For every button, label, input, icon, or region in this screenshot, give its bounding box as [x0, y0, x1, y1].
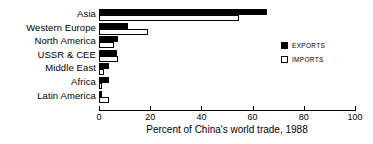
chart-legend: EXPORTS IMPORTS	[281, 40, 367, 68]
x-axis-tick	[253, 106, 254, 110]
x-axis-tick	[99, 106, 100, 110]
bar-imports	[99, 97, 109, 103]
x-axis-tick-label: 20	[137, 112, 163, 122]
bar-imports	[99, 15, 239, 21]
bar-group	[99, 91, 355, 103]
legend-swatch-imports	[281, 56, 288, 63]
x-axis-tick-label: 80	[291, 112, 317, 122]
x-axis-tick	[201, 106, 202, 110]
legend-swatch-exports	[281, 42, 288, 49]
legend-label-exports: EXPORTS	[292, 42, 325, 50]
x-axis-tick-label: 0	[86, 112, 112, 122]
legend-label-imports: IMPORTS	[292, 56, 324, 64]
x-axis-tick-label: 60	[240, 112, 266, 122]
x-axis-tick	[304, 106, 305, 110]
bar-group	[99, 77, 355, 89]
category-label-column: AsiaWestern EuropeNorth AmericaUSSR & CE…	[0, 8, 96, 106]
bar-imports	[99, 42, 114, 48]
category-label: Asia	[0, 9, 96, 19]
category-label: Western Europe	[0, 23, 96, 33]
x-axis-tick-label: 40	[188, 112, 214, 122]
legend-item-imports: IMPORTS	[281, 54, 367, 65]
category-label: Latin America	[0, 91, 96, 101]
x-axis-tick	[150, 106, 151, 110]
bar-imports	[99, 83, 102, 89]
bar-imports	[99, 69, 104, 75]
x-axis-tick-label: 100	[342, 112, 368, 122]
x-axis-line	[99, 110, 356, 111]
bar-imports	[99, 29, 148, 35]
category-label: Middle East	[0, 63, 96, 73]
bar-imports	[99, 56, 118, 62]
x-axis-tick	[355, 106, 356, 110]
x-axis-title: Percent of China's world trade, 1988	[99, 124, 355, 136]
bar-chart: AsiaWestern EuropeNorth AmericaUSSR & CE…	[0, 0, 373, 144]
bar-group	[99, 9, 355, 21]
category-label: North America	[0, 36, 96, 46]
bar-group	[99, 23, 355, 35]
category-label: Africa	[0, 77, 96, 87]
category-label: USSR & CEE	[0, 50, 96, 60]
legend-item-exports: EXPORTS	[281, 40, 367, 51]
